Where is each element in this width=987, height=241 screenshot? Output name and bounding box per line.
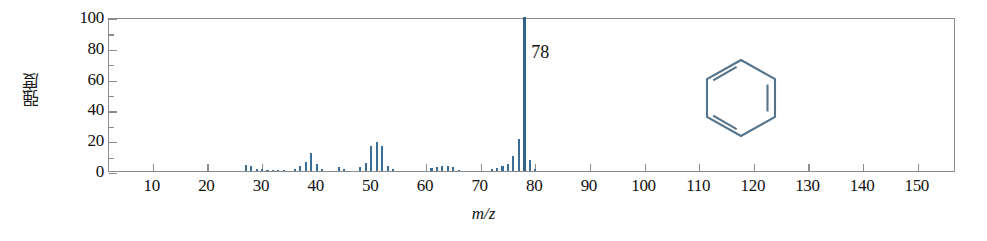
spectrum-peak: [305, 162, 307, 171]
y-tick-major: [109, 19, 117, 20]
x-tick-major: [863, 164, 864, 171]
x-axis-title-text: m/z: [472, 204, 496, 224]
y-tick-minor: [109, 96, 114, 97]
spectrum-peak: [436, 167, 438, 171]
y-tick-minor: [109, 158, 114, 159]
spectrum-peak: [272, 170, 274, 171]
y-tick-major: [109, 50, 117, 51]
spectrum-peak: [250, 166, 252, 171]
y-tick-label: 20: [60, 131, 104, 151]
x-tick-label: 40: [307, 176, 323, 196]
spectrum-peak: [277, 170, 279, 171]
y-tick-label: 0: [60, 162, 104, 182]
y-axis-title: 强度: [22, 58, 44, 122]
spectrum-peak: [381, 146, 383, 171]
y-tick-minor: [109, 65, 114, 66]
spectrum-peak: [507, 164, 509, 171]
x-tick-label: 80: [526, 176, 542, 196]
x-tick-label: 70: [471, 176, 487, 196]
y-tick-major: [109, 142, 117, 143]
spectrum-peak: [430, 168, 432, 171]
spectrum-peak: [441, 166, 443, 171]
x-tick-label: 90: [581, 176, 597, 196]
spectrum-peak: [447, 166, 449, 171]
x-tick-major: [426, 164, 427, 171]
x-tick-major: [207, 164, 208, 171]
x-tick-label: 30: [253, 176, 269, 196]
spectrum-peak: [359, 167, 361, 171]
spectrum-peak: [245, 165, 247, 171]
y-axis-tick-labels: 020406080100: [52, 18, 104, 172]
y-tick-major: [109, 111, 117, 112]
spectrum-peak: [266, 170, 268, 171]
x-tick-major: [590, 164, 591, 171]
base-peak-label: 78: [531, 42, 549, 63]
spectrum-peak: [501, 166, 503, 171]
spectrum-peak: [534, 169, 536, 171]
y-tick-label: 100: [60, 8, 104, 28]
spectrum-peak: [512, 156, 514, 171]
y-tick-label: 40: [60, 100, 104, 120]
x-tick-label: 110: [686, 176, 710, 196]
x-tick-label: 150: [904, 176, 929, 196]
spectrum-peak: [338, 167, 340, 171]
x-tick-label: 120: [741, 176, 766, 196]
x-tick-major: [754, 164, 755, 171]
x-tick-label: 10: [144, 176, 160, 196]
y-tick-major: [109, 81, 117, 82]
spectrum-peak: [376, 142, 378, 171]
x-tick-major: [481, 164, 482, 171]
spectrum-peak: [523, 17, 525, 171]
spectrum-peak: [365, 163, 367, 171]
x-tick-major: [153, 164, 154, 171]
spectrum-peak: [256, 169, 258, 171]
y-tick-label: 60: [60, 70, 104, 90]
spectrum-peak: [316, 164, 318, 171]
spectrum-peak: [343, 169, 345, 171]
spectrum-peak: [452, 167, 454, 171]
spectrum-peak: [294, 169, 296, 171]
spectrum-peak: [458, 170, 460, 171]
x-tick-label: 20: [198, 176, 214, 196]
x-tick-major: [645, 164, 646, 171]
x-tick-major: [699, 164, 700, 171]
spectrum-peak: [261, 169, 263, 171]
spectrum-peak: [321, 169, 323, 171]
x-tick-label: 60: [417, 176, 433, 196]
mass-spectrum-figure: 强度 020406080100 78 m/z 10203040506070809…: [0, 0, 987, 241]
spectrum-peak: [387, 166, 389, 171]
spectrum-peak: [299, 166, 301, 171]
spectrum-peak: [283, 170, 285, 171]
y-tick-minor: [109, 34, 114, 35]
benzene-ring-icon: [702, 56, 780, 140]
spectrum-peak: [370, 146, 372, 171]
spectrum-peak: [310, 153, 312, 171]
y-tick-label: 80: [60, 39, 104, 59]
x-tick-label: 130: [795, 176, 820, 196]
x-tick-label: 100: [631, 176, 656, 196]
benzene-ring-structure: [702, 56, 780, 140]
x-tick-major: [808, 164, 809, 171]
x-tick-major: [918, 164, 919, 171]
spectrum-peak: [529, 160, 531, 171]
spectrum-peak: [491, 169, 493, 171]
spectrum-peak: [392, 169, 394, 171]
y-tick-major: [109, 173, 117, 174]
spectrum-peak: [518, 139, 520, 171]
x-axis-title: m/z: [0, 204, 987, 224]
x-tick-label: 140: [850, 176, 875, 196]
y-tick-minor: [109, 127, 114, 128]
spectrum-peak: [496, 168, 498, 171]
x-tick-label: 50: [362, 176, 378, 196]
